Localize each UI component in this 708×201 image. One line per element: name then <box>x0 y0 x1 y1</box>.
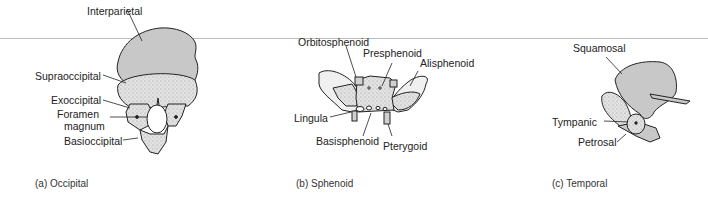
label-exoccipital: Exoccipital <box>51 94 101 106</box>
label-squamosal: Squamosal <box>573 42 626 54</box>
label-presphenoid: Presphenoid <box>363 47 422 59</box>
caption-occipital: (a) Occipital <box>35 178 88 189</box>
label-foramen-magnum-1: Foramen <box>57 108 99 120</box>
label-petrosal: Petrosal <box>578 136 617 148</box>
label-foramen-magnum-2: magnum <box>64 120 105 132</box>
label-tympanic: Tympanic <box>552 116 597 128</box>
temporal-drawing <box>602 57 690 142</box>
label-basisphenoid: Basisphenoid <box>316 135 379 147</box>
sphenoid-drawing <box>319 46 427 136</box>
label-interparietal: Interparietal <box>87 5 142 17</box>
label-basioccipital: Basioccipital <box>64 135 122 147</box>
occipital-drawing <box>103 9 198 154</box>
label-alisphenoid: Alisphenoid <box>420 57 474 69</box>
label-lingula: Lingula <box>294 112 328 124</box>
label-supraoccipital: Supraoccipital <box>35 70 101 82</box>
bone-illustrations <box>0 0 708 201</box>
caption-temporal: (c) Temporal <box>552 178 607 189</box>
label-pterygoid: Pterygoid <box>383 140 427 152</box>
caption-sphenoid: (b) Sphenoid <box>296 178 353 189</box>
label-orbitosphenoid: Orbitosphenoid <box>298 36 369 48</box>
